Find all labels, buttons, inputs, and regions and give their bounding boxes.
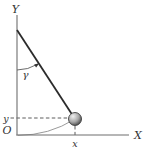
x-axis-label: X bbox=[133, 129, 143, 142]
pendulum-bob bbox=[69, 113, 82, 126]
trajectory-arc bbox=[18, 119, 75, 135]
angle-gamma-label: γ bbox=[23, 69, 29, 80]
pendulum-diagram: Y X O γ y x bbox=[0, 0, 148, 154]
origin-label: O bbox=[2, 124, 11, 137]
y-axis-label: Y bbox=[12, 3, 21, 16]
x-coordinate-label: x bbox=[72, 138, 78, 149]
y-coordinate-label: y bbox=[2, 113, 9, 124]
angle-arc-arrowhead bbox=[34, 63, 39, 67]
pendulum-diagram-canvas: Y X O γ y x bbox=[0, 0, 148, 154]
